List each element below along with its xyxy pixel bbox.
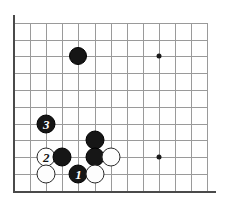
grid-line-vertical [191,23,192,191]
white-stone-lower-left[interactable] [37,164,56,183]
grid-line-vertical [143,23,144,191]
black-stone-left-group[interactable] [53,148,72,167]
grid-line-vertical [127,23,128,191]
board-edge-bottom [13,191,216,193]
black-stone-corner-approach[interactable] [69,47,87,65]
black-stone-move-3[interactable]: 3 [37,114,56,133]
star-point-upper-right [156,54,161,59]
goban-grid: 321 [0,0,230,221]
grid-line-vertical [30,23,31,191]
grid-line-vertical [207,23,208,191]
go-board-diagram: 321 [0,0,230,221]
stone-move-number-label: 2 [43,151,50,164]
stone-move-number-label: 3 [43,117,50,130]
stone-move-number-label: 1 [75,167,82,180]
star-point-lower-right [156,155,161,160]
white-stone-lower-center[interactable] [85,164,104,183]
white-stone-right-wall[interactable] [101,148,120,167]
board-edge-left [13,15,15,193]
grid-line-vertical [159,23,160,191]
grid-line-vertical [175,23,176,191]
